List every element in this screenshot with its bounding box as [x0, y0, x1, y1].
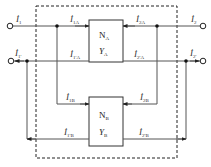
label-i1b: İ1B — [65, 92, 76, 103]
label-i2pb: İ2'B — [138, 127, 149, 138]
junction-dot — [55, 24, 59, 28]
label-i1a: İ1A — [69, 14, 80, 25]
label-i2a: İ2A — [135, 14, 146, 25]
label-i1p: İ1' — [14, 48, 22, 59]
junction-dot — [155, 24, 159, 28]
label-i1pa: İ1'A — [69, 49, 80, 60]
wire-i1b — [57, 26, 89, 104]
label-i1: İ1 — [15, 14, 22, 25]
terminal-1 — [7, 23, 13, 29]
terminal-2p — [200, 58, 206, 64]
label-i2pa: İ2'A — [133, 49, 144, 60]
label-i1pb: İ1'B — [63, 127, 74, 138]
two-port-network-diagram: NA YA NB YB İ1 İ1' İ2 İ2' İ1A İ1'A İ2A İ… — [0, 0, 211, 167]
label-i2b: İ2B — [139, 92, 150, 103]
label-i2p: İ2' — [189, 48, 197, 59]
terminal-1p — [8, 58, 14, 64]
network-box-b — [89, 97, 123, 146]
terminal-2 — [200, 23, 206, 29]
junction-dot — [184, 59, 188, 63]
junction-dot — [25, 59, 29, 63]
label-i2: İ2 — [190, 14, 197, 25]
